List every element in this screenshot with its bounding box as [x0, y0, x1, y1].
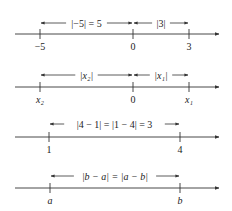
- tick-label: x₁: [184, 94, 193, 105]
- tick-label: b: [178, 195, 183, 206]
- distance-label: |b − a| = |a − b|: [82, 171, 148, 182]
- tick-label: x₂: [35, 94, 44, 105]
- distance-label: |−5| = 5: [71, 18, 101, 29]
- tick-label: 0: [131, 41, 136, 52]
- distance-label: |3|: [156, 18, 165, 29]
- distance-label: |4 − 1| = |1 − 4| = 3: [77, 119, 153, 130]
- number-line-3: 14|4 − 1| = |1 − 4| = 3: [15, 119, 219, 156]
- number-line-diagram: −503|−5| = 5|3|x₂0x₁|x₂||x₁|14|4 − 1| = …: [0, 0, 232, 211]
- number-line-1: −503|−5| = 5|3|: [15, 18, 219, 53]
- tick-label: 0: [131, 94, 136, 105]
- number-line-2: x₂0x₁|x₂||x₁|: [15, 70, 219, 106]
- tick-label: a: [48, 195, 53, 206]
- tick-label: 4: [178, 144, 183, 155]
- number-line-4: ab|b − a| = |a − b|: [15, 171, 219, 207]
- tick-label: 3: [187, 41, 192, 52]
- distance-label: |x₂|: [80, 70, 93, 81]
- tick-label: 1: [47, 144, 52, 155]
- tick-label: −5: [35, 41, 46, 52]
- distance-label: |x₁|: [154, 70, 167, 81]
